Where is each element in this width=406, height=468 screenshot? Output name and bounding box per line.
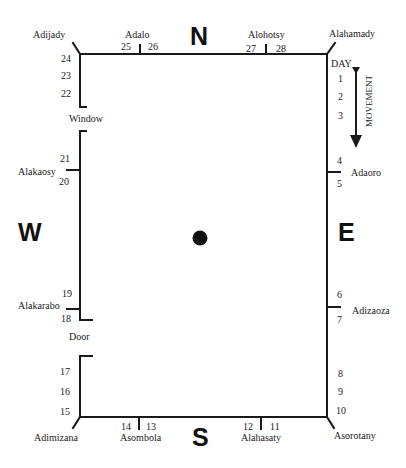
marker-label-alakaosy: Alakaosy [18,166,56,177]
house-orientation-diagram: N S E W Adijady Alahamady Adimizana Asor… [0,0,406,468]
corner-tick-nw [73,43,80,54]
direction-west: W [18,218,42,246]
corner-label-alahamady: Alahamady [329,28,375,39]
day-28: 28 [276,43,286,54]
door-label: Door [69,331,90,342]
day-6: 6 [337,289,342,300]
day-21: 21 [60,153,70,164]
corner-tick-ne [327,43,335,54]
west-wall-upper [80,54,86,107]
marker-label-adaoro: Adaoro [351,167,381,178]
west-wall-lower [80,356,92,417]
window-label: Window [69,113,104,124]
corner-tick-se [327,417,334,428]
day-19: 19 [62,288,72,299]
day-16: 16 [60,386,70,397]
day-5: 5 [337,178,342,189]
corner-label-adimizana: Adimizana [34,432,78,443]
day-14: 14 [121,421,131,432]
marker-label-alohotsy: Alohotsy [248,29,285,40]
marker-label-adalo: Adalo [125,29,149,40]
west-wall-middle [80,131,92,320]
day-2: 2 [338,91,343,102]
marker-label-alakarabo: Alakarabo [18,300,60,311]
day-10: 10 [336,405,346,416]
day-12: 12 [243,421,253,432]
day-25: 25 [121,41,131,52]
movement-legend-label: MOVEMENT [364,75,374,127]
direction-east: E [338,218,355,246]
corner-label-adijady: Adijady [33,29,65,40]
day-9: 9 [338,386,343,397]
movement-arrow-icon [350,67,362,148]
day-17: 17 [60,366,70,377]
day-15: 15 [60,406,70,417]
day-22: 22 [61,88,71,99]
day-1: 1 [338,73,343,84]
center-dot-icon [193,231,208,246]
marker-label-adizaoza: Adizaoza [352,305,390,316]
corner-label-asorotany: Asorotany [334,430,376,441]
day-23: 23 [61,70,71,81]
corner-tick-sw [73,417,80,428]
marker-label-alahasaty: Alahasaty [241,432,281,443]
direction-south: S [192,423,209,451]
direction-north: N [190,22,208,50]
day-20: 20 [59,176,69,187]
day-legend-label: DAY [331,58,352,69]
day-24: 24 [61,53,71,64]
day-26: 26 [148,41,158,52]
marker-label-asombola: Asombola [120,432,162,443]
day-7: 7 [337,314,342,325]
day-8: 8 [338,368,343,379]
day-3: 3 [338,110,343,121]
day-27: 27 [246,43,256,54]
day-11: 11 [270,421,280,432]
day-4: 4 [337,155,342,166]
day-18: 18 [61,313,71,324]
day-13: 13 [146,421,156,432]
